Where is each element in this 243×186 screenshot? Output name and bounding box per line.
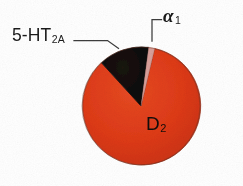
slice-label-d2-subscript: 2 [160,122,166,134]
slice-label-d2: D2 [146,114,166,134]
slice-label-alpha1: α1 [163,6,181,25]
slice-label-alpha1-subscript: 1 [175,14,181,26]
slice-label-d2-text: D [146,113,160,134]
slice-label-5ht2a: 5-HT2A [12,27,65,45]
pie-chart-figure: 5-HT2A α1 D2 [0,0,243,186]
slice-label-5ht2a-subscript: 2A [52,33,65,45]
slice-label-alpha1-text: α [163,5,174,26]
slice-label-5ht2a-text: 5-HT [12,25,51,45]
